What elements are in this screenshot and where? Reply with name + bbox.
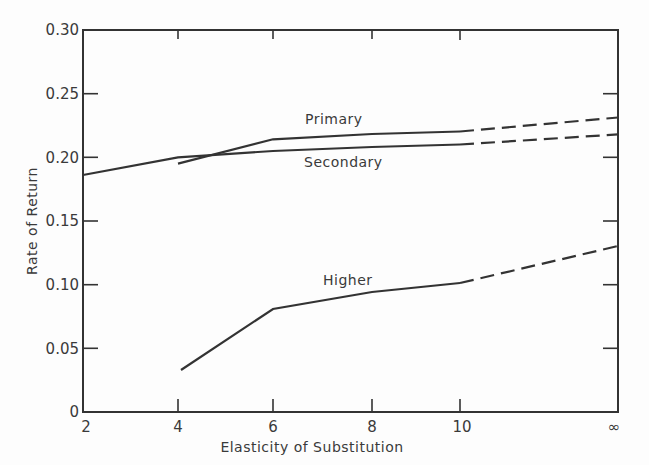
y-tick-0.30: 0.30 — [46, 21, 79, 39]
y-tick-0.15: 0.15 — [46, 212, 79, 230]
x-tick-labels: 2 4 6 8 10 ∞ — [81, 418, 620, 436]
y-tick-0: 0 — [69, 403, 79, 421]
x-ticks — [178, 30, 460, 412]
y-tick-0.20: 0.20 — [46, 149, 79, 167]
line-chart: 0 0.05 0.10 0.15 0.20 0.25 0.30 2 4 6 8 … — [0, 0, 649, 465]
y-tick-0.25: 0.25 — [46, 85, 79, 103]
y-ticks — [83, 94, 618, 349]
series-primary — [178, 118, 618, 164]
label-secondary: Secondary — [304, 154, 383, 170]
y-tick-labels: 0 0.05 0.10 0.15 0.20 0.25 0.30 — [46, 21, 79, 421]
plot-frame — [83, 30, 618, 412]
label-primary: Primary — [305, 111, 363, 127]
x-axis-title: Elasticity of Substitution — [220, 439, 403, 455]
x-tick-10: 10 — [452, 418, 471, 436]
y-tick-0.10: 0.10 — [46, 276, 79, 294]
y-tick-0.05: 0.05 — [46, 340, 79, 358]
x-tick-6: 6 — [268, 418, 278, 436]
label-higher: Higher — [323, 272, 373, 288]
x-tick-8: 8 — [367, 418, 377, 436]
x-tick-2: 2 — [81, 418, 91, 436]
y-axis-title: Rate of Return — [24, 167, 40, 275]
x-tick-infinity: ∞ — [608, 418, 621, 436]
series-higher — [181, 246, 618, 370]
x-tick-4: 4 — [173, 418, 183, 436]
